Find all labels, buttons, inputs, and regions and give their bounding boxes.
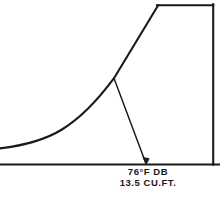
state-point-connector-line (114, 78, 146, 164)
state-point-arrowhead-icon (143, 157, 150, 164)
psychrometric-diagram: 76°F DB 13.5 CU.FT. (0, 0, 220, 202)
diagram-canvas (0, 0, 220, 202)
saturation-curve-path (0, 5, 158, 148)
